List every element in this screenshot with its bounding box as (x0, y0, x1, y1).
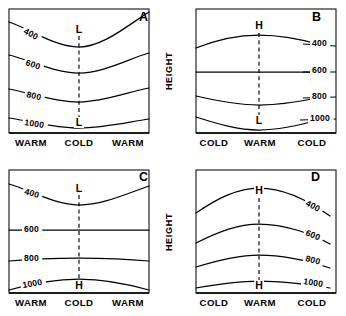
axis-category-label: COLD (298, 297, 327, 308)
contour-label: 1000 (310, 113, 330, 123)
pressure-marker-top: L (76, 23, 83, 35)
axis-category-label: WARM (15, 137, 47, 148)
axis-category-label: COLD (298, 137, 327, 148)
panel-letter: A (139, 10, 148, 24)
pressure-marker-bottom: H (255, 279, 263, 291)
contour-label: 1000 (303, 276, 324, 289)
panel-a: 40060080010004006008001000LLWARMCOLDWARM… (9, 9, 149, 148)
pressure-marker-top: H (255, 19, 263, 31)
panel-letter: C (139, 170, 148, 184)
panel-d: 40060080010004006008001000HHCOLDWARMCOLD… (196, 170, 336, 308)
contour-label: 600 (24, 57, 41, 71)
contour-label: 800 (24, 253, 39, 263)
axis-category-label: COLD (65, 137, 94, 148)
axis-category-label: WARM (244, 137, 276, 148)
contour-label: 400 (23, 186, 40, 200)
contour-label: 800 (26, 89, 43, 102)
contour-label: 800 (305, 253, 322, 266)
pressure-marker-bottom: L (256, 114, 263, 126)
contour-label: 600 (312, 65, 327, 75)
axis-category-label: WARM (112, 297, 144, 308)
axis-category-label: WARM (244, 297, 276, 308)
contour-label: 1000 (22, 277, 43, 290)
axis-category-label: COLD (200, 137, 229, 148)
pressure-height-contour-figure: 40060080010004006008001000LLWARMCOLDWARM… (0, 0, 346, 316)
height-axis-label: HEIGHT (164, 52, 174, 90)
panel-b: 40060080010004006008001000HLCOLDWARMCOLD… (196, 9, 336, 148)
axis-category-label: WARM (15, 297, 47, 308)
contour-label: 1000 (24, 117, 45, 130)
height-axis-label: HEIGHT (164, 213, 174, 251)
contour-label: 600 (24, 224, 39, 234)
panel-c: 40060080010004006008001000LHWARMCOLDWARM… (9, 170, 149, 308)
pressure-marker-bottom: H (75, 279, 83, 291)
axis-category-label: WARM (112, 137, 144, 148)
pressure-marker-bottom: L (76, 116, 83, 128)
contour-label: 400 (312, 38, 327, 48)
pressure-marker-top: L (76, 182, 83, 194)
axis-category-label: COLD (65, 297, 94, 308)
figure-canvas: 40060080010004006008001000LLWARMCOLDWARM… (0, 0, 346, 316)
panel-letter: B (312, 10, 321, 24)
axis-category-label: COLD (200, 297, 229, 308)
height-axis-label-group: HEIGHTHEIGHT (164, 52, 174, 251)
panel-letter: D (311, 170, 320, 184)
contour-label: 800 (312, 91, 327, 101)
pressure-marker-top: H (255, 184, 263, 196)
